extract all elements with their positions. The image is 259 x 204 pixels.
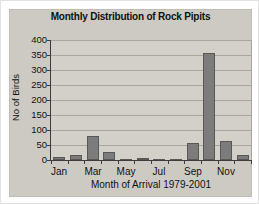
bar-sep [187,143,199,160]
y-tick-label: 50 [19,140,47,150]
x-axis-tick [184,161,185,164]
x-tick-label-mar: Mar [76,166,110,177]
gridline [51,115,251,116]
x-axis-line [47,160,252,161]
x-axis-tick [101,161,102,164]
x-axis-tick [134,161,135,164]
y-axis-tick [47,145,51,146]
y-tick-label: 200 [19,95,47,105]
y-tick-label: 250 [19,80,47,90]
plot-area [51,40,252,160]
gridline [51,130,251,131]
x-tick-label-jan: Jan [42,166,76,177]
y-axis-tick [47,40,51,41]
gridline [51,70,251,71]
y-tick-label: 350 [19,50,47,60]
x-axis-tick [234,161,235,164]
x-tick-label-may: May [109,166,143,177]
gridline [51,55,251,56]
x-axis-tick [84,161,85,164]
y-axis-tick [47,115,51,116]
gridline [51,100,251,101]
x-axis-tick [118,161,119,164]
x-axis-tick [251,161,252,164]
screenshot-frame: Monthly Distribution of Rock Pipits No o… [0,0,259,204]
bar-nov [220,141,232,160]
y-tick-label: 150 [19,110,47,120]
x-axis-tick [168,161,169,164]
x-axis-tick [68,161,69,164]
y-tick-label: 300 [19,65,47,75]
x-tick-label-nov: Nov [209,166,243,177]
x-axis-tick [201,161,202,164]
y-axis-tick [47,55,51,56]
y-axis-tick [47,130,51,131]
y-axis-tick [47,100,51,101]
y-tick-label: 0 [19,155,47,165]
x-axis-tick [218,161,219,164]
x-tick-label-jul: Jul [142,166,176,177]
y-tick-label: 100 [19,125,47,135]
x-axis-title: Month of Arrival 1979-2001 [51,179,251,190]
bar-apr [103,152,115,160]
y-tick-label: 400 [19,35,47,45]
x-axis-tick [151,161,152,164]
x-axis-tick [51,161,52,164]
gridline [51,40,251,41]
x-tick-label-sep: Sep [176,166,210,177]
chart-title: Monthly Distribution of Rock Pipits [9,11,252,22]
gridline [51,85,251,86]
bar-oct [203,53,215,160]
y-axis-tick [47,70,51,71]
bar-mar [87,136,99,160]
y-axis-tick [47,85,51,86]
